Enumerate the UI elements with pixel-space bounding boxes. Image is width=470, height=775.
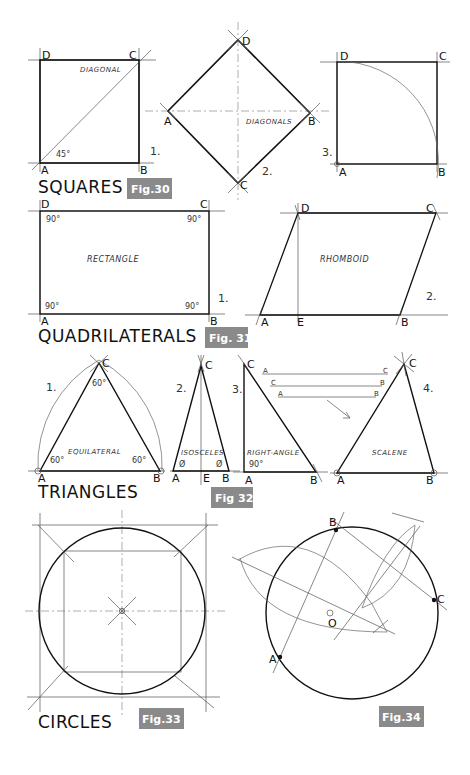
section-title-circles: CIRCLES <box>38 712 112 732</box>
equilateral-label: EQUILATERAL <box>68 448 121 456</box>
angle-45: 45° <box>56 150 70 159</box>
svg-text:Fig 32: Fig 32 <box>215 492 253 505</box>
fig-number-1: 1. <box>46 381 57 394</box>
isosceles-label: ISOSCELES <box>181 449 224 457</box>
vertex-C: C <box>240 179 248 192</box>
vertex-B: B <box>153 472 161 485</box>
vertex-B: B <box>140 164 148 177</box>
circle-fig-33: CIRCLES <box>25 510 228 732</box>
vertex-E: E <box>297 316 304 329</box>
svg-text:90°: 90° <box>185 302 199 311</box>
badge-fig-31: Fig. 31 <box>205 327 251 348</box>
vertex-A: A <box>164 115 172 128</box>
vertex-C: C <box>200 198 208 211</box>
svg-text:B: B <box>380 379 385 387</box>
vertex-E: E <box>203 472 210 485</box>
vertex-C: C <box>409 357 417 370</box>
right-angle-label: RIGHT-ANGLE <box>247 449 300 457</box>
vertex-C: C <box>129 49 137 62</box>
scalene-side-lengths: A C C B A B <box>262 367 388 418</box>
fig-number-2: 2. <box>176 382 187 395</box>
vertex-B: B <box>426 474 434 487</box>
svg-text:Fig.33: Fig.33 <box>142 713 181 726</box>
point-B: B <box>329 516 337 529</box>
equilateral-triangle-fig: C A B 60° 60° 60° EQUILATERAL 1. <box>28 355 165 485</box>
fig-number-1: 1. <box>218 292 229 305</box>
vertex-C: C <box>439 50 447 63</box>
svg-text:60°: 60° <box>50 456 64 465</box>
point-A: A <box>269 653 277 666</box>
badge-fig-32: Fig 32 <box>211 487 253 508</box>
vertex-A: A <box>337 474 345 487</box>
svg-text:A: A <box>278 390 283 398</box>
vertex-A: A <box>172 472 180 485</box>
section-title-quadrilaterals: QUADRILATERALS <box>38 326 197 346</box>
vertex-B: B <box>401 316 409 329</box>
diagonal-label: DIAGONAL <box>80 66 121 74</box>
svg-text:90°: 90° <box>46 215 60 224</box>
circle-fig-34: B C A O <box>232 512 447 699</box>
badge-fig-33: Fig.33 <box>139 708 184 729</box>
fig-number-4: 4. <box>423 382 434 395</box>
vertex-D: D <box>42 49 50 62</box>
section-title-triangles: TRIANGLES <box>37 482 138 502</box>
svg-text:Fig. 31: Fig. 31 <box>209 332 251 345</box>
svg-text:90°: 90° <box>187 215 201 224</box>
isosceles-triangle-fig: C A E B ISOSCELES Ø Ø 2. <box>170 355 240 485</box>
fig-number-3: 3. <box>322 146 333 159</box>
rhomboid-fig: D C A E B RHOMBOID 2. <box>245 202 448 329</box>
vertex-D: D <box>242 35 250 48</box>
svg-text:90°: 90° <box>45 302 59 311</box>
square-fig-2: D B C A DIAGONALS 2. <box>145 22 330 200</box>
diagonals-label: DIAGONALS <box>246 118 292 126</box>
rectangle-label: RECTANGLE <box>87 255 139 264</box>
fig-number-3: 3. <box>232 383 243 396</box>
vertex-C: C <box>205 359 213 372</box>
badge-fig-30: Fig.30 <box>127 178 172 199</box>
vertex-A: A <box>245 474 253 487</box>
svg-text:Ø: Ø <box>216 459 222 469</box>
vertex-D: D <box>301 202 309 215</box>
square-fig-3: D C A B 3. <box>320 50 450 179</box>
svg-text:Ø: Ø <box>179 459 185 469</box>
vertex-B: B <box>438 166 446 179</box>
fig-number-2: 2. <box>262 165 273 178</box>
vertex-B: B <box>210 315 218 328</box>
svg-text:90°: 90° <box>249 460 263 469</box>
vertex-B: B <box>308 115 316 128</box>
fig-number-2: 2. <box>426 290 437 303</box>
vertex-C: C <box>426 202 434 215</box>
scalene-triangle-fig: C A B SCALENE 4. <box>330 352 448 487</box>
right-angle-triangle-fig: C A B RIGHT-ANGLE 90° 3. <box>232 355 328 487</box>
point-C: C <box>437 593 445 606</box>
badge-fig-34: Fig.34 <box>379 706 424 727</box>
square-fig-1: D C A B DIAGONAL 45° 1. <box>28 48 161 177</box>
scalene-label: SCALENE <box>372 449 408 457</box>
vertex-A: A <box>339 166 347 179</box>
svg-text:B: B <box>374 390 379 398</box>
svg-text:60°: 60° <box>92 379 106 388</box>
rhomboid-label: RHOMBOID <box>320 255 369 264</box>
vertex-C: C <box>247 358 255 371</box>
vertex-D: D <box>340 50 348 63</box>
section-title-squares: SQUARES <box>38 177 123 197</box>
svg-text:C: C <box>383 367 388 375</box>
vertex-A: A <box>41 164 49 177</box>
vertex-A: A <box>261 316 269 329</box>
vertex-D: D <box>41 198 49 211</box>
rectangle-fig: D C A B 90° 90° 90° 90° RECTANGLE 1. <box>28 198 229 328</box>
svg-text:A: A <box>263 367 268 375</box>
vertex-B: B <box>222 472 230 485</box>
vertex-C: C <box>102 357 110 370</box>
svg-text:60°: 60° <box>132 456 146 465</box>
vertex-B: B <box>310 474 318 487</box>
center-O: O <box>328 617 337 630</box>
geometry-plate: D C A B DIAGONAL 45° 1. D B C A DIAGONAL… <box>0 0 470 775</box>
svg-text:Fig.30: Fig.30 <box>131 183 170 196</box>
svg-text:Fig.34: Fig.34 <box>382 711 421 724</box>
fig-number-1: 1. <box>150 145 161 158</box>
svg-text:C: C <box>271 379 276 387</box>
